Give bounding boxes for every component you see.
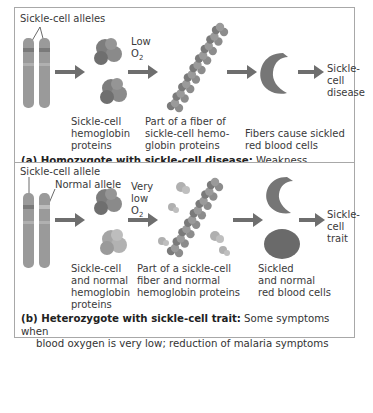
label-line: red blood cells	[258, 287, 331, 298]
label-line: Sickled	[258, 263, 294, 274]
very-low-oxygen-line1: Very	[131, 181, 153, 192]
panel-heterozygote: Sickle-cell allele Normal allele	[14, 162, 355, 338]
normal-hemoglobin-protein-icon	[219, 246, 230, 256]
sickle-hemoglobin-protein-icon	[94, 188, 122, 215]
fiber-bead	[216, 23, 224, 31]
normal-hemoglobin-protein-icon	[100, 229, 127, 255]
very-low-oxygen-line3: O	[131, 205, 139, 216]
chromosome-icon	[39, 38, 50, 108]
cells-label: Sickled and normal red blood cells	[258, 263, 331, 299]
sickle-cell-icon	[266, 177, 293, 214]
hemoglobin-fiber-icon	[167, 178, 223, 257]
arrow-icon	[298, 65, 324, 79]
proteins-label: Sickle-cell and normal hemoglobin protei…	[71, 263, 130, 311]
outcome-line: cell	[327, 221, 344, 232]
label-line: proteins	[71, 140, 112, 151]
low-oxygen-line2: O	[131, 48, 139, 59]
outcome-line: Sickle-	[327, 209, 360, 220]
label-line: red blood cells	[245, 140, 318, 151]
oxygen-subscript: 2	[139, 54, 143, 62]
arrow-icon	[233, 213, 263, 227]
very-low-oxygen-line2: low	[131, 193, 148, 204]
oxygen-subscript: 2	[139, 211, 143, 219]
label-line: Part of a fiber of	[145, 116, 226, 127]
label-line: hemoglobin proteins	[137, 287, 240, 298]
fiber-label: Part of a sickle-cell fiber and normal h…	[137, 263, 240, 299]
caption-text-line2: blood oxygen is very low; reduction of m…	[21, 338, 351, 351]
outcome-line: trait	[327, 233, 348, 244]
sickle-hemoglobin-protein-icon	[94, 38, 122, 65]
caption-heterozygote: (b) Heterozygote with sickle-cell trait:…	[21, 313, 351, 351]
hemoglobin-fiber-icon	[167, 23, 228, 112]
outcome-line: disease	[327, 87, 365, 98]
cells-label: Fibers cause sickled red blood cells	[245, 128, 345, 152]
very-low-oxygen-label: Very low O2	[131, 181, 153, 221]
normal-hemoglobin-protein-icon	[168, 203, 179, 213]
outcome-line: Sickle-	[327, 63, 360, 74]
label-line: Fibers cause sickled	[245, 128, 345, 139]
label-line: fiber and normal	[137, 275, 220, 286]
label-line: Sickle-cell	[71, 116, 121, 127]
low-oxygen-line1: Low	[131, 36, 151, 47]
label-line: and normal	[258, 275, 315, 286]
normal-hemoglobin-protein-icon	[210, 231, 224, 243]
sickle-hemoglobin-protein-icon	[100, 78, 127, 104]
chromosome-icon	[23, 193, 34, 268]
label-line: Sickle-cell	[71, 263, 121, 274]
proteins-label: Sickle-cell hemoglobin proteins	[71, 116, 130, 152]
outcome-disease-label: Sickle- cell disease	[327, 63, 365, 99]
label-line: sickle-cell hemo-	[145, 128, 229, 139]
label-line: hemoglobin	[71, 287, 130, 298]
arrow-icon	[55, 65, 85, 79]
normal-hemoglobin-protein-icon	[158, 237, 169, 246]
caption-title: (b) Heterozygote with sickle-cell trait:	[21, 313, 241, 324]
arrow-icon	[299, 213, 325, 227]
normal-red-blood-cell-icon	[264, 229, 300, 259]
panel-homozygote: Sickle-cell alleles	[14, 7, 355, 163]
low-oxygen-label: Low O2	[131, 36, 151, 64]
panel-a-illustration	[15, 8, 356, 118]
label-line: hemoglobin	[71, 128, 130, 139]
chromosome-icon	[23, 38, 34, 108]
sickle-cell-icon	[260, 53, 288, 94]
arrow-icon	[227, 65, 257, 79]
outcome-line: cell	[327, 75, 344, 86]
label-line: Part of a sickle-cell	[137, 263, 231, 274]
fiber-label: Part of a fiber of sickle-cell hemo- glo…	[145, 116, 229, 152]
arrow-icon	[55, 213, 85, 227]
label-line: globin proteins	[145, 140, 220, 151]
arrow-icon	[128, 65, 158, 79]
normal-hemoglobin-protein-icon	[176, 182, 190, 194]
label-line: and normal	[71, 275, 128, 286]
fiber-bead	[211, 178, 219, 186]
outcome-trait-label: Sickle- cell trait	[327, 209, 360, 245]
chromosome-icon	[39, 193, 50, 268]
label-line: proteins	[71, 299, 112, 310]
